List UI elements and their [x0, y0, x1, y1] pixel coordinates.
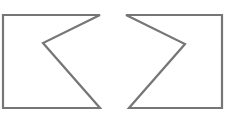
- diagram-canvas: [0, 0, 226, 120]
- diagram-svg: [0, 0, 226, 120]
- right-notched-flag-shape: [126, 15, 222, 108]
- left-notched-flag-shape: [3, 15, 100, 108]
